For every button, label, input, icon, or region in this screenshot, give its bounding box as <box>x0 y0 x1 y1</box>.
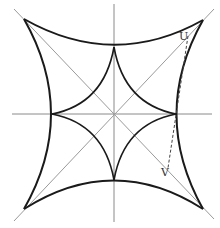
label-v: V <box>160 166 170 179</box>
inner-astroid-top-right <box>114 47 176 114</box>
inner-astroid-bottom-left <box>52 114 114 180</box>
label-u: U <box>179 30 188 43</box>
dashed-segment-uv <box>168 36 188 168</box>
diagram-canvas: U V <box>0 0 220 228</box>
